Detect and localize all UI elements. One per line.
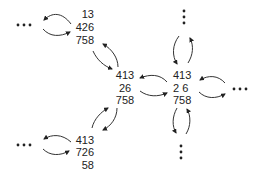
node-bottom-left: 413 726 58 — [76, 134, 94, 171]
arrow-icon — [43, 29, 70, 35]
arrow-icon — [44, 136, 71, 142]
node-text-line: 2 6 — [173, 82, 188, 94]
arrow-icon — [43, 149, 69, 155]
node-text-line: 758 — [173, 94, 191, 106]
node-text-line: 13 — [82, 8, 94, 20]
diagram-svg: 13 426 758 413 26 758 413 2 6 758 — [0, 0, 262, 178]
arrow-icon — [140, 91, 167, 96]
node-text-line: 758 — [76, 34, 94, 46]
node-text-line: 758 — [116, 94, 134, 106]
arrow-icon — [93, 51, 112, 69]
ellipsis-right — [233, 88, 248, 91]
arrow-icon — [200, 77, 225, 83]
node-text-line: 413 — [173, 69, 191, 81]
node-text-line: 26 — [119, 82, 131, 94]
arrow-icon — [140, 75, 167, 82]
node-middle-left: 413 26 758 — [116, 69, 134, 106]
arrow-icon — [186, 109, 190, 134]
arrow-icon — [199, 92, 225, 98]
arrow-icon — [173, 108, 177, 133]
arrow-icon — [92, 108, 108, 128]
node-text-line: 413 — [76, 134, 94, 146]
arrow-icon — [103, 108, 117, 130]
arrow-icon — [173, 36, 179, 64]
node-text-line: 413 — [116, 69, 134, 81]
node-text-line: 426 — [76, 21, 94, 33]
arrow-icon — [188, 38, 192, 63]
ellipsis-top-left — [17, 24, 32, 27]
node-text-line: 58 — [82, 159, 94, 171]
ellipsis-top-right — [183, 10, 186, 25]
ellipsis-bottom-right — [180, 145, 183, 160]
ellipsis-bottom-left — [17, 144, 32, 147]
node-top-left: 13 426 758 — [76, 8, 94, 46]
node-text-line: 726 — [76, 146, 94, 158]
arrow-icon — [103, 44, 118, 67]
state-transition-diagram: 13 426 758 413 26 758 413 2 6 758 — [0, 0, 262, 178]
node-right: 413 2 6 758 — [173, 69, 191, 106]
arrow-icon — [44, 14, 71, 24]
